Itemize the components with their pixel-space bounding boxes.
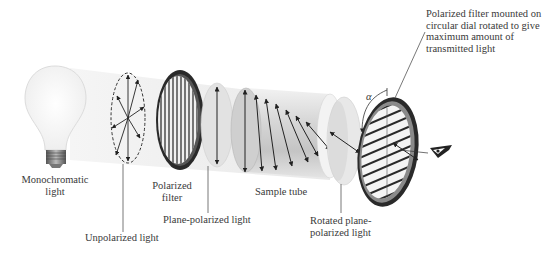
label-line: Monochromatic <box>18 174 92 186</box>
label-line: light <box>18 186 92 198</box>
analyzer-filter-icon <box>351 72 428 230</box>
label-line: Polarized <box>148 180 196 192</box>
label-line: maximum amount of <box>426 31 541 43</box>
label-rotated-plane-polarized-light: Rotated plane- polarized light <box>310 215 372 238</box>
rotated-plane-polarized-disc <box>327 97 361 185</box>
polarimeter-diagram: Monochromatic light Unpolarized light Po… <box>0 0 544 256</box>
leader-analyzer <box>395 32 425 98</box>
label-line: polarized light <box>310 227 372 239</box>
label-analyzer-filter: Polarized filter mounted on circular dia… <box>426 8 541 54</box>
sample-tube <box>231 88 343 178</box>
label-unpolarized-light: Unpolarized light <box>85 232 159 244</box>
label-polarized-filter: Polarized filter <box>148 180 196 203</box>
label-line: transmitted light <box>426 43 541 55</box>
plane-polarized-disc <box>201 83 233 167</box>
label-line: circular dial rotated to give <box>426 20 541 32</box>
label-line: Rotated plane- <box>310 215 372 227</box>
label-plane-polarized-light: Plane-polarized light <box>163 214 251 226</box>
label-sample-tube: Sample tube <box>255 186 307 198</box>
label-line: Polarized filter mounted on <box>426 8 541 20</box>
label-monochromatic-light: Monochromatic light <box>18 174 92 197</box>
eye-icon <box>430 145 452 158</box>
label-alpha: α <box>366 91 372 103</box>
polarizer-filter-icon <box>156 70 204 170</box>
label-line: filter <box>148 192 196 204</box>
